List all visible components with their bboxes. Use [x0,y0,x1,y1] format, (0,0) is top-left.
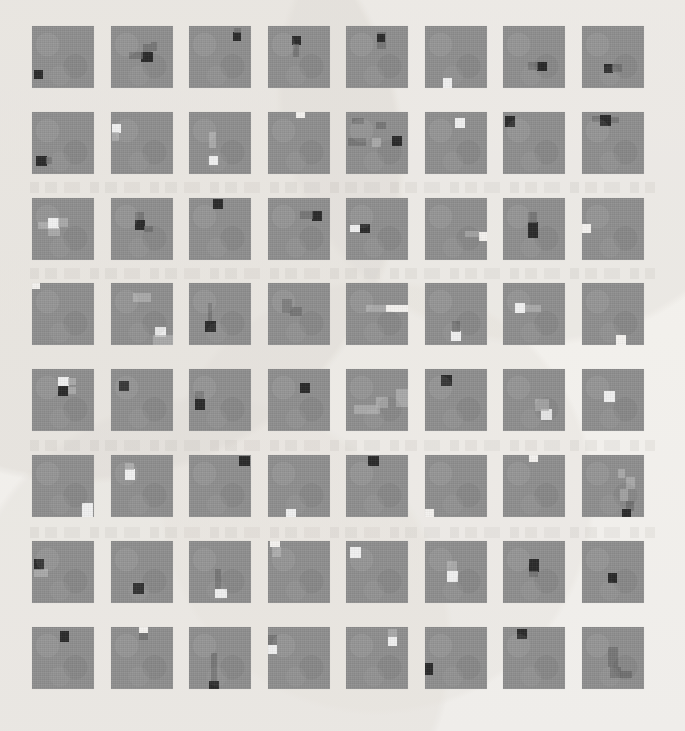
image-patch [582,198,644,260]
patch-blob-mid-dark [215,569,221,589]
patch-blob-light [125,469,135,480]
patch-blob-mid-light [535,399,549,411]
patch-blob-dark [34,70,43,79]
patch-blob-paper [425,509,434,517]
patch-blob-light [209,156,218,165]
image-patch [346,283,408,345]
patch-blob-dark [368,456,379,466]
patch-blob-dark [377,34,385,42]
image-patch [346,198,408,260]
patch-blob-mid-light [388,629,397,637]
patch-blob-mid-light [48,228,60,236]
patch-blob-mid-dark [151,42,157,51]
patch-blob-dark [233,32,241,41]
image-patch [268,455,330,517]
patch-grain [189,26,251,88]
patch-mottle [582,26,644,88]
image-patch [346,541,408,603]
patch-grain [268,455,330,517]
patch-blob-mid-dark [268,635,277,645]
patch-blob-dark [209,681,219,689]
patch-grain [32,283,94,345]
image-patch [32,627,94,689]
patch-blob-dark [312,211,322,221]
patch-blob-dark [528,222,538,238]
patch-blob-mid-light [133,293,151,302]
patch-blob-light [451,331,461,341]
image-patch [268,26,330,88]
patch-blob-mid-dark [135,212,144,220]
image-patch [32,541,94,603]
patch-blob-mid-light [618,469,625,478]
patch-blob-mid-dark [46,157,52,164]
image-patch [582,26,644,88]
patch-blob-mid-dark [452,321,460,332]
patch-mottle [268,198,330,260]
patch-blob-mid-light [272,547,281,557]
patch-grain [111,455,173,517]
patch-blob-mid-light [354,405,380,414]
patch-blob-mid-light [38,222,48,229]
patch-mottle [268,112,330,174]
patch-blob-paper [386,305,408,312]
patch-mottle [268,455,330,517]
patch-blob-mid-dark [528,62,538,70]
patch-blob-dark [58,386,68,396]
patch-blob-dark [205,321,216,332]
patch-mottle [346,283,408,345]
image-patch [111,283,173,345]
image-patch [268,112,330,174]
image-patch [32,283,94,345]
patch-blob-mid-dark [139,633,148,640]
patch-grain [425,198,487,260]
patch-mottle [582,283,644,345]
patch-blob-dark [622,509,631,517]
image-patch [189,455,251,517]
patch-grain [268,112,330,174]
patch-mottle [111,112,173,174]
patch-blob-light [215,589,227,598]
patch-mottle [268,627,330,689]
image-patch [503,369,565,431]
patch-blob-dark [425,663,433,675]
patch-blob-light [443,78,452,88]
image-patch [425,627,487,689]
image-patch [189,26,251,88]
patch-blob-mid-light [620,489,628,501]
patch-blob-mid-dark [529,571,538,577]
patch-blob-mid-light [58,218,68,227]
patch-blob-dark [600,115,611,126]
patch-grain [111,369,173,431]
image-patch [425,541,487,603]
image-patch [268,369,330,431]
patch-blob-dark [505,116,515,127]
patch-blob-mid-dark [592,116,600,122]
patch-grid-figure: Grid of learned feature patches [0,0,685,731]
patch-blob-paper [616,335,626,345]
patch-mottle [425,455,487,517]
patch-blob-light [350,547,361,558]
patch-blob-mid-light [125,463,134,470]
image-patch [425,26,487,88]
image-patch [268,541,330,603]
patch-blob-paper [582,224,591,233]
patch-blob-light [350,225,360,232]
patch-grain [582,283,644,345]
patch-blob-mid-dark [208,303,212,321]
image-patch [582,112,644,174]
patch-blob-mid-light [626,477,635,489]
patch-blob-light [447,571,458,582]
patch-blob-dark [517,629,527,639]
image-patch [503,26,565,88]
patch-blob-mid-dark [612,64,622,72]
patch-blob-dark [195,399,205,410]
patch-blob-mid-dark [144,226,153,232]
patch-mottle [32,283,94,345]
patch-mottle [425,26,487,88]
image-patch [346,627,408,689]
patch-grain [503,26,565,88]
image-patch [189,627,251,689]
patch-grain [503,627,565,689]
patch-blob-paper [32,283,40,289]
patch-grain [425,26,487,88]
